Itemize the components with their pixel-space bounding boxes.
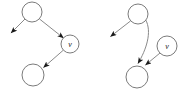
right-graph: v xyxy=(111,4,178,88)
right-v-node-label: v xyxy=(165,42,169,51)
left-bottom-node[interactable] xyxy=(22,64,44,86)
figure-root: v v xyxy=(0,0,190,94)
left-edge-top-to-dangling xyxy=(11,19,25,33)
right-edge-v-to-bottom xyxy=(146,53,161,65)
right-edge-top-to-bottom-curved xyxy=(138,20,148,64)
left-graph: v xyxy=(11,2,79,86)
left-edge-top-to-v xyxy=(40,19,64,38)
graph-figure-svg: v v xyxy=(0,0,190,94)
left-v-node-label: v xyxy=(68,40,72,49)
right-top-node[interactable] xyxy=(128,4,148,24)
right-bottom-node[interactable] xyxy=(126,66,148,88)
right-edge-top-to-dangling xyxy=(111,21,131,37)
left-edge-v-to-bottom xyxy=(44,50,64,68)
left-top-node[interactable] xyxy=(22,2,42,22)
